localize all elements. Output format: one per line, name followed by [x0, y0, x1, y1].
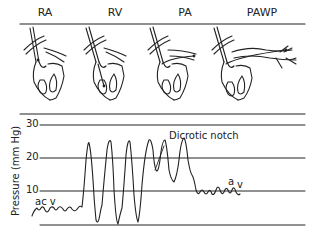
heart-pa-illustration — [148, 27, 196, 100]
pawp-v-wave-label: v — [237, 179, 243, 190]
heart-rv-illustration — [84, 27, 126, 100]
dicrotic-notch-label: Dicrotic notch — [169, 130, 239, 141]
y-tick-20: 20 — [26, 151, 39, 162]
pressure-waveform — [32, 138, 240, 224]
y-tick-30: 30 — [26, 118, 39, 129]
heart-pawp-illustration — [212, 27, 296, 100]
heart-ra-illustration — [24, 27, 66, 100]
ra-wave-label: ac v — [35, 196, 56, 207]
y-tick-10: 10 — [26, 184, 39, 195]
pawp-a-wave-label: a — [228, 176, 234, 187]
y-axis-label: Pressure (mm Hg) — [10, 126, 21, 216]
